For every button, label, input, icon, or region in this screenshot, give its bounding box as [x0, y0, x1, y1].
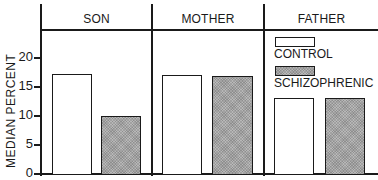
- bar-mother-control: [162, 75, 202, 175]
- header-divider: [40, 29, 378, 31]
- y-tick-0: [34, 173, 40, 175]
- legend-label-control: CONTROL: [274, 47, 333, 61]
- legend-swatch-schizophrenic: [275, 66, 315, 76]
- panel-title-father: FATHER: [265, 12, 378, 26]
- y-tick-label-15: 15: [11, 78, 33, 93]
- bar-father-control: [274, 98, 314, 175]
- y-tick-5: [34, 144, 40, 146]
- y-tick-20: [34, 57, 40, 59]
- y-tick-10: [34, 115, 40, 117]
- panel-title-son: SON: [42, 12, 151, 26]
- bar-mother-schizophrenic: [212, 76, 253, 175]
- bar-father-schizophrenic: [325, 98, 365, 175]
- panel-title-mother: MOTHER: [153, 12, 263, 26]
- panel-divider-2: [263, 4, 265, 176]
- y-tick-label-5: 5: [11, 136, 33, 151]
- legend-label-schizophrenic: SCHIZOPHRENIC: [274, 76, 373, 90]
- legend-swatch-control: [275, 37, 315, 47]
- y-tick-label-0: 0: [11, 165, 33, 180]
- bar-son-schizophrenic: [101, 116, 141, 175]
- y-tick-label-20: 20: [11, 49, 33, 64]
- panel-divider-1: [151, 4, 153, 176]
- y-tick-15: [34, 86, 40, 88]
- y-tick-label-10: 10: [11, 107, 33, 122]
- bar-son-control: [52, 74, 92, 175]
